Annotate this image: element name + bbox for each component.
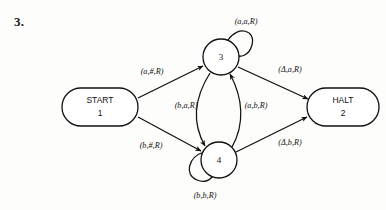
state-diagram: START 1 HALT 2 3 4 (a,#,R) (b,#,R) (b,a,…	[0, 0, 386, 210]
edge-label-4-to-halt: (Δ,b,R)	[278, 138, 302, 147]
node-start-label: START	[86, 95, 113, 105]
edge-label-4-self-loop: (b,b,R)	[194, 191, 217, 200]
node-state-4[interactable]: 4	[201, 142, 237, 178]
edge-label-start-to-4: (b,#,R)	[140, 141, 163, 150]
edge-label-3-to-halt: (Δ,a,R)	[278, 65, 302, 74]
node-halt-number: 2	[341, 108, 346, 118]
edge-label-start-to-3: (a,#,R)	[141, 67, 164, 76]
edge-label-3-to-4: (b,a,R)	[175, 101, 198, 110]
node-halt-label: HALT	[332, 95, 353, 105]
node-start-number: 1	[98, 108, 103, 118]
node-halt[interactable]: HALT 2	[307, 88, 379, 126]
node-state-3[interactable]: 3	[203, 39, 239, 75]
edge-label-4-to-3: (a,b,R)	[245, 101, 268, 110]
node-start[interactable]: START 1	[62, 88, 138, 126]
edge-3-to-4	[197, 73, 210, 146]
diagram-page: 3. START 1	[0, 0, 386, 210]
edge-4-to-3	[230, 74, 241, 147]
node-state-3-label: 3	[219, 52, 224, 62]
node-state-4-label: 4	[217, 155, 222, 165]
edge-label-3-self-loop: (a,a,R)	[235, 17, 258, 26]
